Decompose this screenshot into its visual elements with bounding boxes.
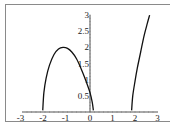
x-tick-label: 3 bbox=[155, 113, 160, 123]
x-tick-label: 0 bbox=[88, 113, 93, 123]
curve-branch-1 bbox=[43, 47, 94, 110]
y-tick-label: 2.5 bbox=[78, 26, 90, 36]
x-tick-label: 1 bbox=[110, 113, 115, 123]
axes: -3-2-101230.511.522.53 bbox=[17, 10, 161, 123]
x-tick-label: -3 bbox=[17, 113, 25, 123]
plot-area: -3-2-101230.511.522.53 bbox=[0, 0, 170, 130]
curve-branch-2 bbox=[132, 15, 150, 110]
curves bbox=[43, 15, 150, 110]
y-tick-label: 3 bbox=[85, 10, 90, 20]
y-tick-label: 0.5 bbox=[78, 91, 90, 101]
x-tick-label: -2 bbox=[39, 113, 47, 123]
x-tick-label: -1 bbox=[62, 113, 70, 123]
x-tick-label: 2 bbox=[133, 113, 138, 123]
y-tick-label: 2 bbox=[85, 42, 90, 52]
